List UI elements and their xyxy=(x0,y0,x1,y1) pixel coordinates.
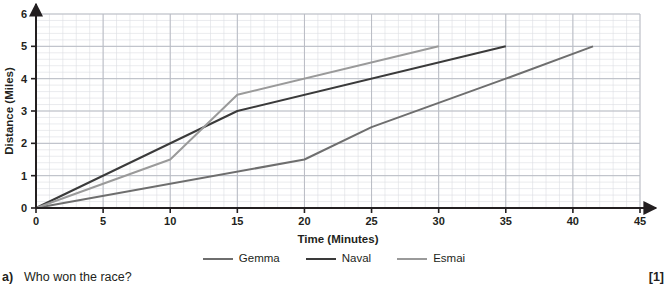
x-axis-title: Time (Minutes) xyxy=(298,233,379,245)
y-axis-tick-label: 2 xyxy=(21,137,27,149)
x-axis-tick-label: 45 xyxy=(634,215,646,227)
x-axis-tick-label: 0 xyxy=(33,215,39,227)
question-row: a) Who won the race? [1] xyxy=(0,268,668,290)
y-axis-tick-label: 1 xyxy=(21,170,27,182)
legend-swatch-gemma xyxy=(203,258,233,260)
x-axis-tick-label: 10 xyxy=(164,215,176,227)
legend-entry-gemma: Gemma xyxy=(203,253,280,265)
y-axis-tick-label: 6 xyxy=(21,8,27,20)
chart-legend: GemmaNavalEsmai xyxy=(0,250,668,268)
legend-swatch-naval xyxy=(306,258,336,260)
distance-time-graph-figure: 0510152025303540450123456Time (Minutes)D… xyxy=(0,0,668,265)
y-axis-tick-label: 0 xyxy=(21,202,27,214)
legend-label-esmai: Esmai xyxy=(433,253,465,265)
chart-canvas: 0510152025303540450123456Time (Minutes)D… xyxy=(0,0,668,250)
legend-label-naval: Naval xyxy=(342,253,371,265)
x-axis-tick-label: 5 xyxy=(100,215,106,227)
x-axis-tick-label: 25 xyxy=(365,215,377,227)
y-axis-title: Distance (Miles) xyxy=(3,67,15,155)
question-letter: a) xyxy=(2,270,13,284)
x-axis-tick-label: 15 xyxy=(231,215,243,227)
y-axis-tick-label: 5 xyxy=(21,40,27,52)
question-text: Who won the race? xyxy=(24,270,132,284)
x-axis-tick-label: 40 xyxy=(567,215,579,227)
question-marks: [1] xyxy=(649,270,664,284)
legend-swatch-esmai xyxy=(397,258,427,260)
legend-entry-esmai: Esmai xyxy=(397,253,465,265)
legend-label-gemma: Gemma xyxy=(239,253,280,265)
y-axis-tick-label: 3 xyxy=(21,105,27,117)
x-axis-tick-label: 30 xyxy=(433,215,445,227)
legend-entry-naval: Naval xyxy=(306,253,371,265)
x-axis-tick-label: 20 xyxy=(298,215,310,227)
y-axis-tick-label: 4 xyxy=(21,73,28,85)
x-axis-tick-label: 35 xyxy=(500,215,512,227)
